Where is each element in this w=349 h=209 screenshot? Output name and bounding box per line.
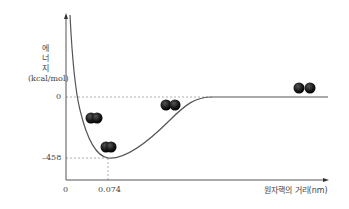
y-tick-zero: 0 xyxy=(56,92,61,101)
molecule-separated xyxy=(294,83,316,94)
y-tick-min: –458 xyxy=(42,153,61,162)
x-axis-arrow-icon xyxy=(323,178,329,182)
x-tick-min: 0.074 xyxy=(98,185,121,194)
potential-energy-curve xyxy=(70,15,328,158)
y-axis-arrow-icon xyxy=(64,13,68,19)
molecule-compressed xyxy=(86,113,103,124)
energy-chart xyxy=(0,0,349,209)
molecule-bond-length xyxy=(101,142,117,153)
x-tick-zero: 0 xyxy=(63,185,68,194)
molecule-touching xyxy=(161,100,181,111)
x-axis-label: 원자핵의 거리(nm) xyxy=(264,184,328,195)
